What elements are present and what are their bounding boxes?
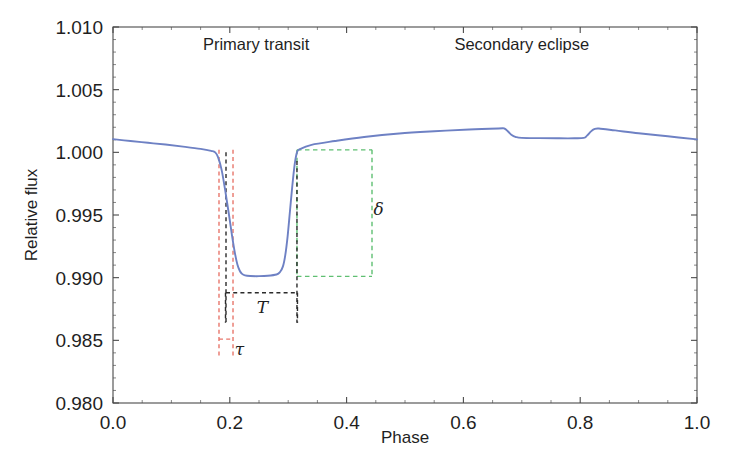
y-tick-label: 0.980 bbox=[55, 393, 103, 414]
x-axis-label: Phase bbox=[381, 428, 429, 447]
x-tick-label: 1.0 bbox=[684, 412, 710, 433]
x-tick-label: 0.4 bbox=[333, 412, 360, 433]
y-tick-label: 0.990 bbox=[55, 268, 103, 289]
primary-transit-label: Primary transit bbox=[203, 35, 310, 53]
secondary-eclipse-label: Secondary eclipse bbox=[454, 35, 589, 53]
x-tick-label: 0.0 bbox=[100, 412, 126, 433]
y-tick-label: 1.000 bbox=[55, 142, 103, 163]
x-tick-label: 0.6 bbox=[450, 412, 476, 433]
transit-lightcurve-figure: 0.9800.9850.9900.9951.0001.0051.010 0.00… bbox=[0, 0, 734, 472]
y-tick-label: 1.005 bbox=[55, 80, 103, 101]
duration-symbol: T bbox=[257, 297, 270, 317]
x-tick-label: 0.2 bbox=[217, 412, 243, 433]
x-tick-label: 0.8 bbox=[567, 412, 593, 433]
y-axis-label: Relative flux bbox=[22, 168, 41, 261]
depth-symbol: δ bbox=[374, 199, 384, 219]
chart-canvas: 0.9800.9850.9900.9951.0001.0051.010 0.00… bbox=[0, 0, 734, 472]
ingress-symbol: τ bbox=[235, 339, 245, 359]
y-tick-label: 0.985 bbox=[55, 330, 103, 351]
figure-background bbox=[0, 0, 734, 472]
y-tick-label: 1.010 bbox=[55, 17, 103, 38]
y-tick-label: 0.995 bbox=[55, 205, 103, 226]
